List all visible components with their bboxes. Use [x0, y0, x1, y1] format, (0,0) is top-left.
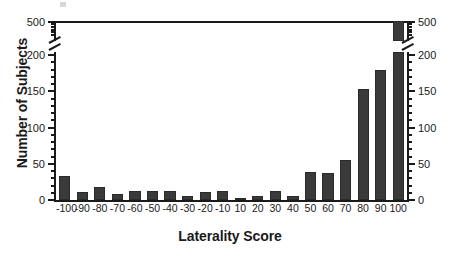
bar-slot--20: [196, 21, 214, 200]
x-tick-label--80: -80: [91, 202, 109, 214]
bar--40: [164, 191, 175, 200]
bar--80: [94, 187, 105, 200]
y-tick-left-110: [51, 119, 55, 121]
x-tick-label-20: 20: [249, 202, 267, 214]
x-tick-label--40: -40: [161, 202, 179, 214]
bar-slot-80: [354, 21, 372, 200]
y-tick-right-350: [408, 29, 412, 31]
bar--90: [77, 192, 88, 200]
x-tick-label-10: 10: [232, 202, 250, 214]
y-tick-label-right-150: 150: [407, 86, 436, 97]
y-tick-left-400: [51, 26, 55, 28]
bar-slot--60: [126, 21, 144, 200]
y-tick-label-right-0: 0: [407, 195, 424, 206]
y-tick-left-40: [51, 170, 55, 172]
x-tick-label--10: -10: [214, 202, 232, 214]
x-axis-ticks: -100-90-80-70-60-50-40-30-20-10102030405…: [56, 202, 407, 218]
y-tick-right-130: [408, 105, 412, 107]
bar-20: [252, 196, 263, 200]
x-tick-label--60: -60: [126, 202, 144, 214]
y-tick-left-350: [51, 29, 55, 31]
y-tick-right-90: [408, 134, 412, 136]
bar--50: [147, 191, 158, 200]
bar-slot-60: [319, 21, 337, 200]
bar-90: [375, 70, 386, 201]
y-tick-label-left-0: 0: [39, 195, 56, 206]
x-tick-label--30: -30: [179, 202, 197, 214]
bar-slot-100: [389, 21, 407, 200]
bar-slot-50: [302, 21, 320, 200]
y-tick-label-left-100: 100: [27, 123, 56, 134]
x-tick-label-40: 40: [284, 202, 302, 214]
y-tick-right-80: [408, 141, 412, 143]
x-tick-label-100: 100: [389, 202, 407, 214]
bar--70: [112, 194, 123, 200]
bar--20: [200, 192, 211, 200]
bar-slot-10: [232, 21, 250, 200]
bar--60: [129, 191, 140, 200]
x-tick-label-60: 60: [319, 202, 337, 214]
y-tick-left-120: [51, 112, 55, 114]
y-tick-right-40: [408, 170, 412, 172]
y-axis-title: Number of Subjects: [14, 13, 30, 193]
x-tick-label-90: 90: [372, 202, 390, 214]
bar--10: [217, 191, 228, 200]
bar-slot--80: [91, 21, 109, 200]
x-tick-label--20: -20: [196, 202, 214, 214]
bar-slot--100: [56, 21, 74, 200]
y-tick-left-70: [51, 148, 55, 150]
y-tick-left-250: [51, 34, 55, 36]
y-tick-right-160: [408, 83, 412, 85]
bar-slot--10: [214, 21, 232, 200]
bar-30: [270, 191, 281, 200]
bar-series: [56, 21, 407, 200]
y-tick-label-right-50: 50: [407, 159, 430, 170]
y-tick-left-140: [51, 98, 55, 100]
bar--100: [59, 176, 70, 200]
y-tick-left-450: [51, 23, 55, 25]
y-tick-right-110: [408, 119, 412, 121]
bar-50: [305, 172, 316, 200]
bar-slot--70: [109, 21, 127, 200]
y-tick-right-400: [408, 26, 412, 28]
y-tick-left-160: [51, 83, 55, 85]
y-tick-label-right-100: 100: [407, 123, 436, 134]
bar-segment-lower-100: [393, 52, 404, 200]
scan-artifact: [60, 2, 66, 7]
x-tick-label--50: -50: [144, 202, 162, 214]
y-tick-right-140: [408, 98, 412, 100]
y-tick-left-20: [51, 185, 55, 187]
bar-slot--40: [161, 21, 179, 200]
bar-slot--50: [144, 21, 162, 200]
y-tick-right-170: [408, 76, 412, 78]
y-tick-right-180: [408, 69, 412, 71]
bar-60: [322, 173, 333, 200]
y-tick-right-30: [408, 177, 412, 179]
x-tick-label-80: 80: [354, 202, 372, 214]
x-axis-title: Laterality Score: [55, 228, 405, 244]
x-tick-label-50: 50: [302, 202, 320, 214]
bar-slot-70: [337, 21, 355, 200]
y-tick-left-170: [51, 76, 55, 78]
bar-slot-20: [249, 21, 267, 200]
y-tick-left-30: [51, 177, 55, 179]
bar-slot--30: [179, 21, 197, 200]
y-tick-left-300: [51, 31, 55, 33]
y-tick-label-left-50: 50: [33, 159, 56, 170]
y-tick-right-10: [408, 192, 412, 194]
y-tick-left-180: [51, 69, 55, 71]
y-tick-left-130: [51, 105, 55, 107]
y-tick-left-60: [51, 156, 55, 158]
bar-slot--90: [74, 21, 92, 200]
y-tick-right-120: [408, 112, 412, 114]
bar-segment-upper-100: [393, 21, 404, 41]
bar-100: [393, 21, 404, 200]
x-tick-label--90: -90: [74, 202, 92, 214]
x-tick-label-30: 30: [267, 202, 285, 214]
y-tick-right-20: [408, 185, 412, 187]
y-tick-right-70: [408, 148, 412, 150]
y-tick-right-60: [408, 156, 412, 158]
bar-70: [340, 160, 351, 200]
bar-10: [235, 198, 246, 200]
chart-figure: Number of Subjects Laterality Score 0501…: [0, 0, 457, 260]
